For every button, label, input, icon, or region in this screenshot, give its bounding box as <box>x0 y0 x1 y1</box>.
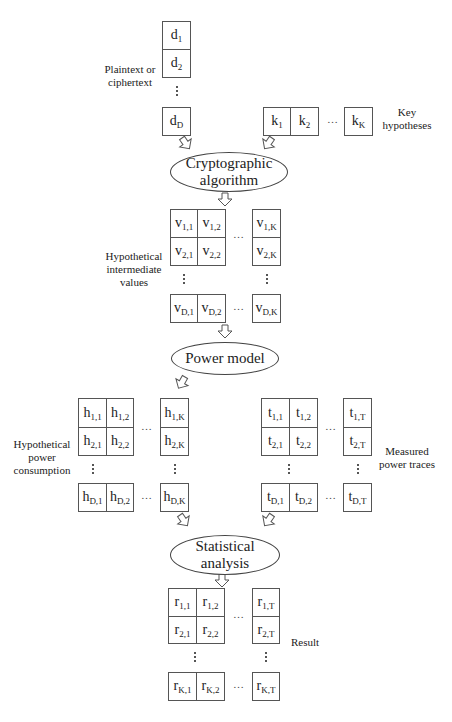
horizontal-ellipsis: … <box>327 113 338 125</box>
cell-h: hD,K <box>160 483 189 512</box>
cell-t: tD,1 <box>261 483 290 512</box>
cell-h: hD,2 <box>106 483 134 512</box>
cell-v: v1,2 <box>197 209 226 238</box>
vertical-ellipsis <box>92 464 94 476</box>
horizontal-ellipsis: … <box>141 420 152 432</box>
vertical-ellipsis <box>176 86 178 98</box>
cell-r: r2,T <box>252 616 280 644</box>
cell-h: h2,K <box>160 427 189 456</box>
cell-d1: d1 <box>162 21 191 50</box>
step-power-model: Power model <box>171 342 279 375</box>
label-measured-power-traces: Measuredpower traces <box>374 445 440 471</box>
cell-r: r2,1 <box>168 616 197 644</box>
vertical-ellipsis <box>194 652 196 664</box>
cell-h: hD,1 <box>78 483 107 512</box>
cell-k2: k2 <box>290 107 319 136</box>
cell-v: v2,K <box>252 237 281 266</box>
cell-t: t2,1 <box>261 427 290 456</box>
cell-r: r2,2 <box>196 616 225 644</box>
cell-v: v2,2 <box>197 237 226 266</box>
cell-v: vD,1 <box>170 294 198 323</box>
vertical-ellipsis <box>265 652 267 664</box>
cell-t: t2,T <box>343 427 372 456</box>
cell-r: rK,1 <box>168 672 197 701</box>
label-plaintext: Plaintext orciphertext <box>100 63 160 89</box>
vertical-ellipsis <box>288 464 290 476</box>
cell-h: h2,2 <box>106 427 134 456</box>
cell-t: t2,2 <box>289 427 318 456</box>
cell-h: h2,1 <box>78 427 107 456</box>
step-cryptographic-algorithm: Cryptographicalgorithm <box>170 152 288 192</box>
cell-r: r1,2 <box>196 588 225 617</box>
cell-h: h1,K <box>160 398 189 428</box>
cell-v: v2,1 <box>170 237 198 266</box>
arrow-k-to-crypto <box>259 134 278 153</box>
cell-v: v1,1 <box>170 209 198 238</box>
vertical-ellipsis <box>183 274 185 286</box>
arrow-d-to-crypto <box>176 134 195 153</box>
cell-k1: k1 <box>263 107 291 136</box>
arrow-power-to-h <box>172 374 191 392</box>
cell-t: t1,2 <box>289 398 318 428</box>
cell-t: t1,1 <box>261 398 290 428</box>
cell-v: vD,K <box>252 294 281 323</box>
cell-t: tD,T <box>343 483 372 512</box>
label-hypothetical-power-consumption: Hypotheticalpowerconsumption <box>8 438 76 477</box>
cell-t: tD,2 <box>289 483 318 512</box>
label-key-hypotheses: Keyhypotheses <box>378 106 436 132</box>
cell-t: t1,T <box>343 398 372 428</box>
cell-h: h1,1 <box>78 398 107 428</box>
cell-r: rK,T <box>252 672 280 701</box>
horizontal-ellipsis: … <box>233 608 244 620</box>
cell-v: v1,K <box>252 209 281 238</box>
horizontal-ellipsis: … <box>141 489 152 501</box>
label-result: Result <box>285 636 325 649</box>
cell-r: r1,T <box>252 588 280 617</box>
vertical-ellipsis <box>174 464 176 476</box>
cell-h: h1,2 <box>106 398 134 428</box>
step-statistical-analysis: Statisticalanalysis <box>170 535 280 575</box>
arrow-stat-to-r <box>215 574 229 587</box>
arrow-t-to-stat <box>259 511 278 530</box>
cell-r: rK,2 <box>196 672 225 701</box>
arrow-v-to-power <box>218 325 232 338</box>
cell-v: vD,2 <box>197 294 226 323</box>
horizontal-ellipsis: … <box>233 228 244 240</box>
horizontal-ellipsis: … <box>325 420 336 432</box>
vertical-ellipsis <box>357 464 359 476</box>
cell-r: r1,1 <box>168 588 197 617</box>
arrow-h-to-stat <box>174 511 193 530</box>
cell-kK: kK <box>344 107 373 136</box>
arrow-crypto-to-v <box>218 193 232 206</box>
horizontal-ellipsis: … <box>233 678 244 690</box>
label-hypothetical-intermediate-values: Hypotheticalintermediatevalues <box>100 250 168 289</box>
cell-dD: dD <box>162 107 191 136</box>
vertical-ellipsis <box>266 274 268 286</box>
cell-d2: d2 <box>162 49 191 78</box>
horizontal-ellipsis: … <box>325 489 336 501</box>
horizontal-ellipsis: … <box>233 300 244 312</box>
